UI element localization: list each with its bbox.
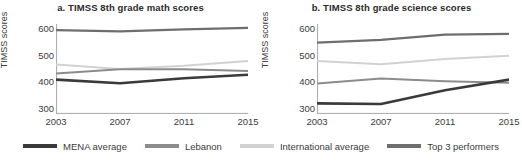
- series-line-top-3-performers: [56, 28, 248, 31]
- series-line-international-average: [317, 56, 509, 64]
- legend-swatch-mena: [23, 144, 57, 148]
- y-tick-label: 300: [20, 104, 54, 114]
- legend-label-mena: MENA average: [63, 141, 127, 152]
- y-axis-label-science: TIMSS scores: [260, 7, 272, 73]
- x-axis-ticks-science: 2003200720112015: [317, 116, 509, 130]
- legend-swatch-international: [240, 144, 274, 148]
- legend-swatch-top3: [387, 144, 421, 148]
- plot-svg-science: [317, 24, 509, 114]
- legend-label-lebanon: Lebanon: [185, 141, 222, 152]
- x-tick-label: 2011: [425, 116, 465, 127]
- y-tick-label: 400: [281, 77, 315, 87]
- x-tick-label: 2007: [100, 116, 140, 127]
- legend-item-top3[interactable]: Top 3 performers: [387, 141, 499, 152]
- y-axis-ticks-science: 300400500600: [275, 24, 315, 114]
- y-tick-label: 500: [20, 51, 54, 61]
- series-line-lebanon: [56, 69, 248, 73]
- x-tick-label: 2003: [297, 116, 337, 127]
- series-line-top-3-performers: [317, 34, 509, 43]
- y-tick-label: 600: [281, 24, 315, 34]
- x-tick-label: 2015: [489, 116, 522, 127]
- x-tick-label: 2007: [361, 116, 401, 127]
- y-tick-label: 300: [281, 104, 315, 114]
- plot-svg-math: [56, 24, 248, 114]
- figure-root: a. TIMSS 8th grade math scores TIMSS sco…: [0, 0, 522, 160]
- y-axis-ticks-math: 300400500600: [14, 24, 54, 114]
- y-tick-label: 600: [20, 24, 54, 34]
- plot-area-math: [56, 24, 248, 114]
- x-axis-ticks-math: 2003200720112015: [56, 116, 248, 130]
- series-line-lebanon: [317, 79, 509, 84]
- x-tick-label: 2011: [164, 116, 204, 127]
- legend-item-international[interactable]: International average: [240, 141, 369, 152]
- chart-panel-science: b. TIMSS 8th grade science scores TIMSS …: [261, 0, 522, 132]
- legend-item-lebanon[interactable]: Lebanon: [145, 141, 222, 152]
- plot-area-science: [317, 24, 509, 114]
- legend: MENA averageLebanonInternational average…: [0, 136, 522, 156]
- series-line-mena-average: [56, 75, 248, 83]
- legend-item-mena[interactable]: MENA average: [23, 141, 127, 152]
- series-line-international-average: [56, 61, 248, 69]
- y-tick-label: 400: [20, 77, 54, 87]
- series-line-mena-average: [317, 80, 509, 104]
- chart-title-math: a. TIMSS 8th grade math scores: [0, 2, 261, 13]
- legend-label-top3: Top 3 performers: [427, 141, 499, 152]
- chart-title-science: b. TIMSS 8th grade science scores: [261, 2, 522, 13]
- y-axis-label-math: TIMSS scores: [0, 7, 11, 73]
- legend-label-international: International average: [280, 141, 369, 152]
- x-tick-label: 2003: [36, 116, 76, 127]
- y-tick-label: 500: [281, 51, 315, 61]
- chart-panel-math: a. TIMSS 8th grade math scores TIMSS sco…: [0, 0, 261, 132]
- legend-swatch-lebanon: [145, 144, 179, 148]
